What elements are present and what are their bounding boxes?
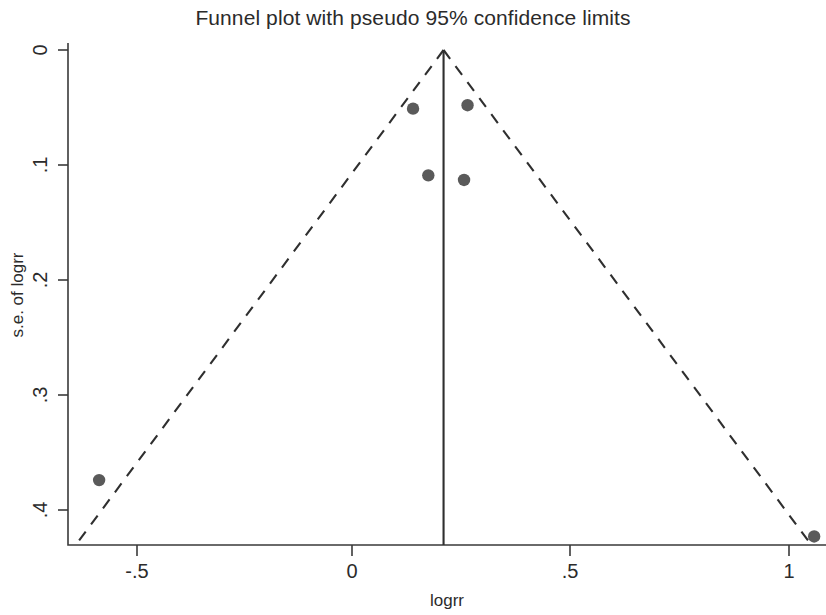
pseudo-ci-funnel: [74, 50, 812, 547]
ci-limit-lower: [74, 50, 443, 547]
y-tick-label-3: .3: [29, 387, 51, 404]
data-point: [422, 169, 434, 181]
data-point: [461, 99, 473, 111]
y-tick-label-0: 0: [29, 44, 51, 55]
y-tick-label-2: .2: [29, 272, 51, 289]
y-axis-ticks: [58, 50, 68, 510]
x-axis-tick-labels: -.5 0 .5 1: [125, 560, 794, 582]
x-tick-label-2: .5: [562, 560, 579, 582]
data-points-layer: [93, 99, 820, 543]
y-tick-label-1: .1: [29, 157, 51, 174]
x-axis-ticks: [137, 545, 789, 556]
data-point: [458, 174, 470, 186]
data-point: [407, 102, 419, 114]
funnel-plot-figure: Funnel plot with pseudo 95% confidence l…: [0, 0, 826, 615]
y-axis-tick-labels: 0 .1 .2 .3 .4: [29, 44, 51, 518]
y-tick-label-4: .4: [29, 502, 51, 519]
data-point: [93, 474, 105, 486]
x-axis-title: logrr: [430, 591, 464, 610]
plot-canvas: 0 .1 .2 .3 .4 s.e. of logrr -.5 0 .5 1 l…: [0, 0, 826, 615]
x-tick-label-1: 0: [346, 560, 357, 582]
axis-spines: [68, 43, 826, 545]
y-axis-title: s.e. of logrr: [8, 252, 27, 337]
ci-limit-upper: [444, 50, 813, 547]
x-tick-label-0: -.5: [125, 560, 148, 582]
data-point: [808, 530, 820, 542]
x-tick-label-3: 1: [783, 560, 794, 582]
